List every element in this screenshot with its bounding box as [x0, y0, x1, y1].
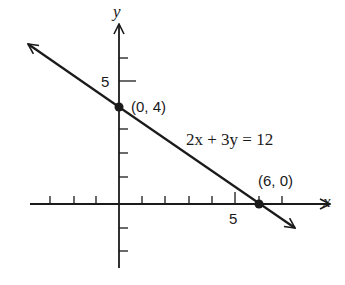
equation-label: 2x + 3y = 12: [186, 130, 273, 150]
equation-line-extension: [119, 107, 295, 228]
x-ticks: [50, 192, 282, 204]
y-ticks: [119, 58, 136, 251]
x-axis-label: x: [323, 192, 331, 212]
point-0-4: [115, 103, 124, 112]
point-label-6-0: (6, 0): [258, 172, 293, 189]
x-tick-label-5: 5: [229, 210, 237, 227]
y-tick-label-5: 5: [101, 73, 109, 90]
point-6-0: [255, 200, 264, 209]
point-label-0-4: (0, 4): [131, 98, 166, 115]
y-axis-label: y: [113, 2, 121, 22]
coordinate-plane: [0, 0, 345, 285]
